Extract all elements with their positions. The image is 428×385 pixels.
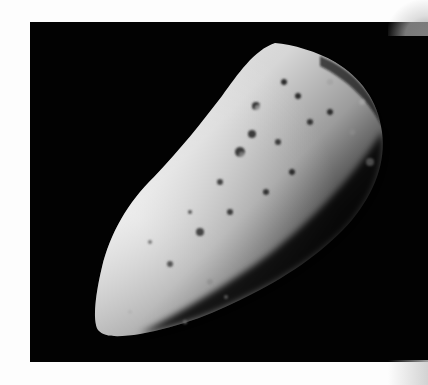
asteroid-image: [30, 22, 428, 362]
page-curl-bottom: [388, 360, 428, 385]
page: [0, 0, 428, 385]
asteroid-photo: [30, 22, 428, 362]
page-curl-top: [388, 0, 428, 36]
